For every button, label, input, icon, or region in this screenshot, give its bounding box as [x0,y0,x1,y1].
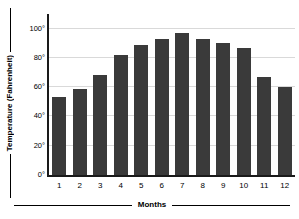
bar-series [49,14,295,175]
x-axis-line [47,175,295,177]
y-axis-tick-label: 40° [34,113,45,121]
y-axis-tick-labels: 0°20°40°60°80°100° [20,14,47,177]
bar [237,48,251,175]
bar [134,45,148,175]
x-axis-tick-label: 5 [134,182,148,190]
x-axis-tick-label: 11 [257,182,271,190]
x-axis-tick-labels: 123456789101112 [49,179,295,193]
bar [114,55,128,175]
plot-area [47,14,295,177]
x-axis-tick-label: 4 [114,182,128,190]
x-axis-tick-label: 3 [93,182,107,190]
x-axis-tick-label: 2 [73,182,87,190]
y-axis-title-group: Temperature (Fahrenheit) [0,8,20,198]
x-axis-title: Months [132,201,172,209]
y-axis-tick-label: 20° [34,142,45,150]
y-axis-tick-label: 60° [34,83,45,91]
x-axis-tick-label: 10 [237,182,251,190]
x-axis-title-rule-right [172,205,290,206]
y-axis-tick-label: 0° [38,171,45,179]
x-axis-tick-label: 1 [52,182,66,190]
bar [52,97,66,175]
x-axis-tick-label: 9 [216,182,230,190]
bar [175,33,189,175]
bar [278,87,292,175]
bar [155,39,169,175]
x-axis-title-rule-left [14,205,132,206]
y-axis-tick-label: 100° [29,25,45,33]
bar [93,75,107,175]
x-axis-tick-label: 7 [175,182,189,190]
y-axis-title-rule-top [10,8,11,52]
y-axis-tick-label: 80° [34,54,45,62]
bar [216,43,230,175]
x-axis-tick-label: 12 [278,182,292,190]
bar [196,39,210,175]
x-axis-tick-label: 8 [196,182,210,190]
chart-figure: Temperature (Fahrenheit) 0°20°40°60°80°1… [0,0,299,219]
y-axis-title: Temperature (Fahrenheit) [6,52,14,154]
bar [257,77,271,175]
x-axis-title-group: Months [14,198,290,212]
x-axis-tick-label: 6 [155,182,169,190]
y-axis-title-rule-bottom [10,154,11,198]
bar [73,89,87,175]
